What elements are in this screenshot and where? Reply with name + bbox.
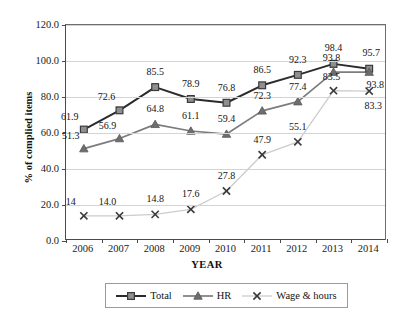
x-tick-mark	[137, 239, 138, 243]
data-label: 14.0	[99, 197, 117, 207]
square-marker	[116, 107, 123, 114]
x-axis-title: YEAR	[0, 259, 414, 270]
x-tick-mark	[351, 239, 352, 243]
square-marker	[128, 292, 135, 299]
gridline	[66, 133, 385, 134]
square-marker	[223, 99, 230, 106]
square-marker	[259, 82, 266, 89]
x-tick-label: 2014	[358, 243, 379, 254]
data-label: 95.7	[362, 48, 380, 58]
legend-swatch-wage	[242, 290, 272, 302]
data-label: 55.1	[289, 122, 307, 132]
legend-item-total[interactable]: Total	[116, 290, 171, 302]
legend-label: HR	[217, 290, 232, 301]
data-label: 92.3	[289, 55, 307, 65]
legend-item-wage-hours[interactable]: Wage & hours	[242, 290, 336, 302]
data-label: 51.3	[62, 131, 80, 141]
x-tick-mark	[387, 239, 388, 243]
plot-area: 61.972.685.578.976.886.592.398.495.751.3…	[65, 24, 386, 240]
y-tick-mark	[62, 97, 66, 98]
data-label: 47.9	[253, 135, 271, 145]
x-tick-label: 2008	[144, 243, 165, 254]
y-tick-mark	[62, 61, 66, 62]
y-tick-mark	[62, 169, 66, 170]
legend-item-hr[interactable]: HR	[183, 290, 232, 302]
y-tick-label: 100.0	[14, 55, 59, 66]
data-label: 77.4	[289, 82, 307, 92]
y-tick-label: 20.0	[14, 199, 59, 210]
square-marker	[294, 71, 301, 78]
x-tick-mark	[316, 239, 317, 243]
gridline	[66, 25, 385, 26]
data-label: 83.3	[364, 101, 382, 111]
x-tick-label: 2006	[72, 243, 93, 254]
data-label: 86.5	[253, 65, 271, 75]
cross-marker	[223, 187, 230, 194]
data-label: 27.8	[218, 171, 236, 181]
x-tick-mark	[102, 239, 103, 243]
x-tick-label: 2007	[108, 243, 129, 254]
data-label: 85.5	[146, 67, 164, 77]
x-tick-mark	[209, 239, 210, 243]
y-tick-mark	[62, 25, 66, 26]
cross-marker	[294, 138, 301, 145]
x-tick-label: 2009	[179, 243, 200, 254]
line-chart: % of complied items 0.020.040.060.080.01…	[0, 0, 414, 323]
data-label: 64.8	[146, 104, 164, 114]
x-tick-mark	[244, 239, 245, 243]
legend-label: Wage & hours	[276, 290, 336, 301]
data-label: 83.5	[323, 72, 341, 82]
data-label: 93.8	[323, 53, 341, 63]
x-tick-mark	[173, 239, 174, 243]
data-label: 93.8	[366, 80, 384, 90]
x-tick-label: 2011	[251, 243, 272, 254]
data-label: 72.3	[253, 91, 271, 101]
x-tick-mark	[280, 239, 281, 243]
legend-swatch-hr	[183, 290, 213, 302]
data-label: 14.8	[146, 194, 164, 204]
data-label: 72.6	[98, 92, 116, 102]
x-tick-mark	[66, 239, 67, 243]
y-tick-label: 120.0	[14, 19, 59, 30]
data-label: 78.9	[182, 79, 200, 89]
square-marker	[152, 84, 159, 91]
x-tick-label: 2010	[215, 243, 236, 254]
y-tick-label: 40.0	[14, 163, 59, 174]
data-label: 59.4	[218, 114, 236, 124]
y-tick-label: 0.0	[14, 235, 59, 246]
cross-marker	[259, 151, 266, 158]
series-line-wage-hours	[84, 91, 369, 216]
x-tick-label: 2012	[286, 243, 307, 254]
legend-swatch-total	[116, 290, 146, 302]
y-tick-label: 60.0	[14, 127, 59, 138]
chart-legend: TotalHRWage & hours	[105, 283, 348, 308]
square-marker	[80, 126, 87, 133]
data-label: 61.9	[61, 112, 79, 122]
data-label: 76.8	[218, 83, 236, 93]
y-tick-label: 80.0	[14, 91, 59, 102]
triangle-marker	[151, 120, 159, 127]
legend-label: Total	[150, 290, 171, 301]
data-label: 14	[66, 197, 76, 207]
x-tick-label: 2013	[322, 243, 343, 254]
data-label: 17.6	[182, 189, 200, 199]
data-label: 56.9	[99, 121, 117, 131]
data-label: 61.1	[182, 111, 200, 121]
